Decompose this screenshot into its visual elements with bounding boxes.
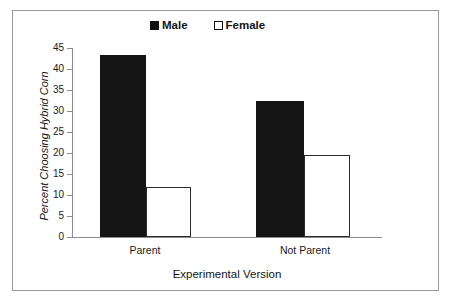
y-tick-40 xyxy=(67,69,73,70)
plot-area: 45 40 35 30 25 20 15 10 5 0 Percent Choo… xyxy=(0,0,452,305)
x-category-label-parent: Parent xyxy=(105,245,185,256)
chart-figure: Male Female 45 40 35 30 25 20 15 10 5 0 xyxy=(0,0,452,305)
y-tick-0 xyxy=(67,237,73,238)
y-tick-35 xyxy=(67,90,73,91)
y-axis-line xyxy=(72,48,73,237)
y-tick-45 xyxy=(67,48,73,49)
x-axis-title: Experimental Version xyxy=(72,268,382,280)
x-category-label-not-parent: Not Parent xyxy=(262,245,348,256)
y-tick-30 xyxy=(67,111,73,112)
y-tick-5 xyxy=(67,216,73,217)
y-tick-label-45: 45 xyxy=(44,43,64,53)
y-tick-25 xyxy=(67,132,73,133)
y-tick-15 xyxy=(67,174,73,175)
bar-female-parent xyxy=(146,187,191,237)
bar-male-not-parent xyxy=(256,101,304,237)
y-tick-10 xyxy=(67,195,73,196)
x-axis-line xyxy=(72,237,382,238)
bar-female-not-parent xyxy=(304,155,350,237)
bar-male-parent xyxy=(100,55,146,237)
y-tick-20 xyxy=(67,153,73,154)
y-axis-title: Percent Choosing Hybrid Corn xyxy=(38,56,50,236)
